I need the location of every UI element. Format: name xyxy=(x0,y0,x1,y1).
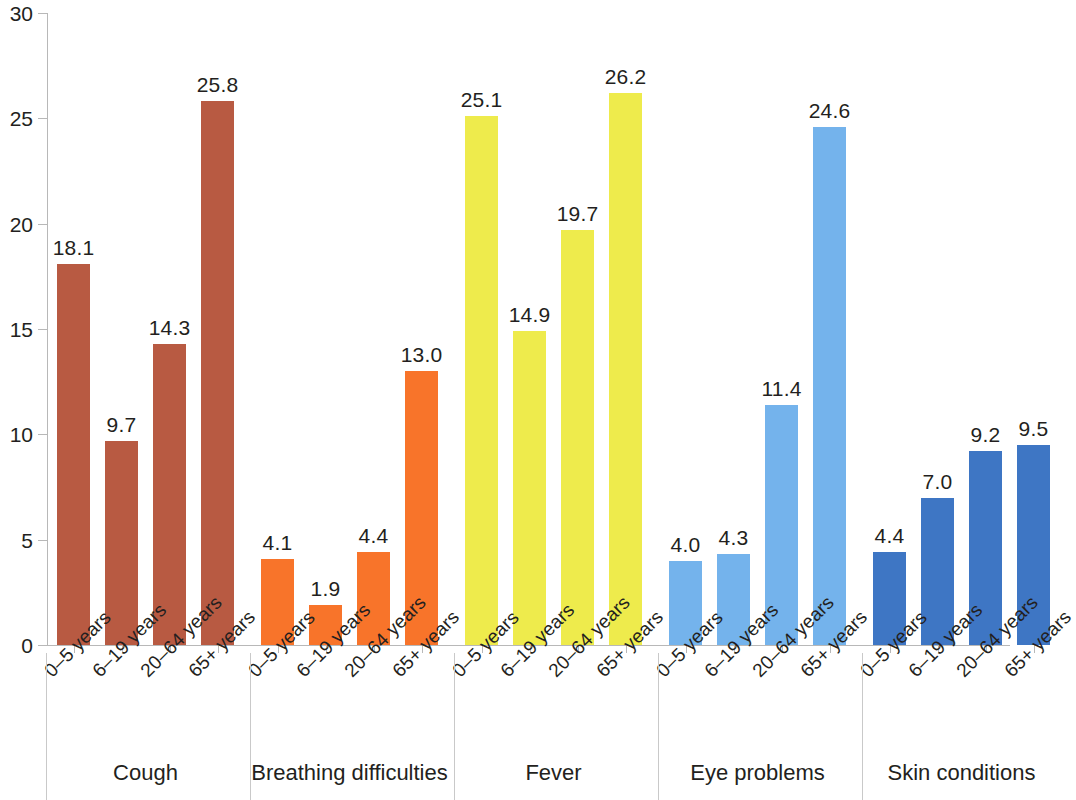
bar-value-label: 14.9 xyxy=(499,304,560,325)
y-axis-tick-label: 5 xyxy=(0,530,33,551)
bar xyxy=(561,230,594,645)
bar-value-label: 13.0 xyxy=(391,344,452,365)
y-axis-tick-label: 15 xyxy=(0,319,33,340)
y-axis-tick-label: 0 xyxy=(0,635,33,656)
bar xyxy=(513,331,546,645)
y-axis-tick-label: 10 xyxy=(0,424,33,445)
bar-value-label: 4.3 xyxy=(703,527,764,548)
y-axis-tick-label: 30 xyxy=(0,3,33,24)
bar-value-label: 9.7 xyxy=(91,414,152,435)
bar-value-label: 11.4 xyxy=(751,378,812,399)
bar-value-label: 1.9 xyxy=(295,578,356,599)
bar-value-label: 4.4 xyxy=(859,525,920,546)
bar-value-label: 7.0 xyxy=(907,471,968,492)
bar xyxy=(609,93,642,645)
y-axis-tick xyxy=(38,645,48,646)
group-label: Skin conditions xyxy=(822,762,1076,784)
bar xyxy=(57,264,90,645)
bar xyxy=(153,344,186,645)
bar-value-label: 9.5 xyxy=(1003,418,1064,439)
y-axis-tick-label: 20 xyxy=(0,214,33,235)
bar-value-label: 4.4 xyxy=(343,525,404,546)
bar-value-label: 19.7 xyxy=(547,203,608,224)
bar-value-label: 18.1 xyxy=(43,237,104,258)
bar-value-label: 4.1 xyxy=(247,532,308,553)
bar xyxy=(201,101,234,645)
y-axis-tick-label: 25 xyxy=(0,108,33,129)
bar xyxy=(105,441,138,645)
bar-value-label: 25.8 xyxy=(187,74,248,95)
bar-value-label: 24.6 xyxy=(799,100,860,121)
bar-value-label: 14.3 xyxy=(139,317,200,338)
bar-value-label: 25.1 xyxy=(451,89,512,110)
bar-value-label: 26.2 xyxy=(595,66,656,87)
bar xyxy=(813,127,846,645)
bar xyxy=(465,116,498,645)
